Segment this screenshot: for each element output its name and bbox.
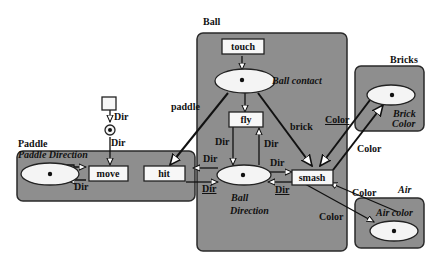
module-title-paddle: Paddle — [18, 138, 48, 149]
place-ball-contact[interactable] — [215, 69, 275, 93]
token-dot — [48, 172, 52, 176]
place-ball-contact-label: Ball contact — [271, 75, 323, 86]
transition-fly-label: fly — [240, 114, 251, 125]
token-dot — [390, 93, 394, 97]
arc-label-fly-in-dir: Dir — [264, 138, 279, 149]
arc-label-hit-in-dir: Dir — [203, 153, 218, 164]
transition-hit-label: hit — [158, 168, 170, 179]
arc-label-paddle: paddle — [171, 101, 200, 112]
token-dot — [392, 229, 396, 233]
arc-label-fly-out-dir: Dir — [215, 136, 230, 147]
module-title-ball: Ball — [203, 16, 220, 27]
place-ball-direction-label-2: Direction — [229, 205, 269, 216]
place-brick-color-label-2: Color — [392, 118, 415, 129]
module-title-bricks: Bricks — [390, 54, 418, 65]
arc-label-color-air-out: Color — [352, 187, 377, 198]
arc-label-color-brick-in: Color — [325, 114, 350, 125]
arc-label-brick: brick — [290, 121, 313, 132]
transition-touch-label: touch — [231, 41, 255, 52]
transition-input[interactable] — [102, 97, 116, 110]
arc-label-color-air-in: Color — [319, 211, 344, 222]
place-ball-direction-label-1: Ball — [230, 192, 248, 203]
arc-label-hit-out-dir: Dir — [202, 183, 217, 194]
transition-smash-label: smash — [299, 172, 326, 183]
place-paddle-direction-label: Paddle Direction — [18, 149, 88, 160]
arc-label-move-in-dir: Dir — [111, 137, 126, 148]
arc-label-input-dir: Dir — [114, 111, 129, 122]
token-dot — [240, 78, 244, 82]
arc-label-move-out-dir: Dir — [74, 181, 89, 192]
petri-net-diagram: Ball Paddle Bricks Air — [0, 0, 445, 268]
place-air-color-label: Air color — [375, 207, 413, 218]
transition-move-label: move — [97, 168, 120, 179]
module-title-air: Air — [397, 184, 411, 195]
token-dot — [241, 173, 245, 177]
arc-label-smash-out-dir: Dir — [275, 184, 290, 195]
arc-label-smash-in-dir: Dir — [270, 157, 285, 168]
arc-label-color-brick-out: Color — [357, 143, 382, 154]
token-dot — [108, 128, 112, 132]
